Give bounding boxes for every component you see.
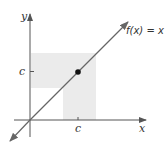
y-tick-label: c — [19, 65, 25, 78]
y-axis-label: y — [20, 10, 28, 23]
x-tick-label: c — [75, 122, 81, 135]
point-c-c — [75, 69, 81, 75]
vertical-shade-band — [63, 53, 96, 120]
x-axis-label: x — [139, 122, 146, 135]
identity-function-diagram: y x c c f(x) = x — [0, 0, 168, 150]
function-label: f(x) = x — [126, 25, 164, 36]
function-line-negative — [10, 120, 30, 141]
